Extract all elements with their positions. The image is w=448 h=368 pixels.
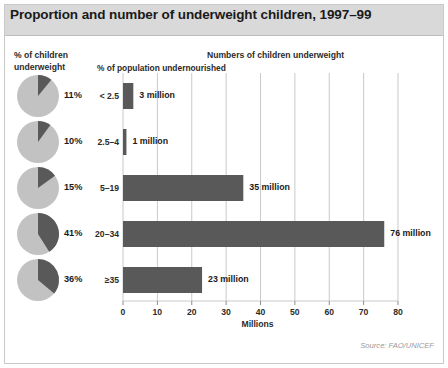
bar-value-label: 23 million (208, 274, 249, 284)
bar-value-label: 3 million (139, 90, 175, 100)
category-label: 2.5–4 (69, 137, 119, 147)
x-tick-label-50: 50 (280, 307, 310, 317)
right-column-header: Numbers of children underweight (207, 50, 344, 60)
x-tick-label-30: 30 (211, 307, 241, 317)
left-column-header-line2: underweight (14, 62, 109, 74)
x-tick-label-70: 70 (349, 307, 379, 317)
category-label: ≥35 (69, 275, 119, 285)
bar-value-label: 76 million (390, 228, 431, 238)
x-tick-label-60: 60 (314, 307, 344, 317)
middle-column-header: % of population undernourished (97, 63, 226, 73)
category-label: 5–19 (69, 183, 119, 193)
chart-title: Proportion and number of underweight chi… (10, 7, 371, 22)
x-tick-label-10: 10 (142, 307, 172, 317)
source-note: Source: FAO/UNICEF (360, 341, 434, 350)
x-axis-title: Millions (242, 319, 274, 329)
category-label: < 2.5 (69, 91, 119, 101)
left-column-header: % of children underweight (14, 50, 109, 73)
x-tick-label-80: 80 (383, 307, 413, 317)
category-label: 20–34 (69, 229, 119, 239)
bar-value-label: 35 million (249, 182, 290, 192)
chart-figure: Proportion and number of underweight chi… (0, 0, 448, 368)
x-tick-label-20: 20 (177, 307, 207, 317)
left-column-header-line1: % of children (14, 50, 109, 62)
bar-value-label: 1 million (132, 136, 168, 146)
x-tick-label-0: 0 (108, 307, 138, 317)
x-tick-label-40: 40 (246, 307, 276, 317)
